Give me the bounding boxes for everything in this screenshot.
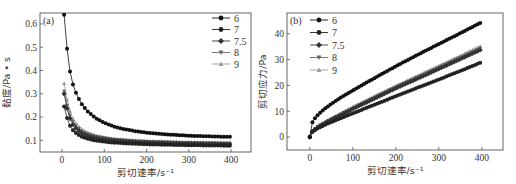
y-tick-label: 0.4	[25, 66, 37, 76]
data-point-marker	[80, 102, 84, 106]
data-point-marker	[68, 69, 72, 73]
x-tick-label: 0	[60, 155, 65, 165]
panel-b-shear-stress-chart: 0100200300400010203040剪切速率/s⁻¹剪切应力/Pa(b)…	[257, 13, 503, 176]
legend-item-7: 7	[212, 24, 239, 35]
y-tick-label: 0.3	[25, 89, 37, 99]
legend-label: 7.5	[332, 40, 345, 51]
x-tick-label: 300	[432, 153, 447, 163]
plot-area	[62, 13, 233, 148]
data-point-marker	[74, 91, 78, 95]
y-tick-label: 0.1	[25, 136, 37, 146]
x-axis-label: 剪切速率/s⁻¹	[117, 167, 174, 178]
y-axis-label: 黏度/Pa • s	[1, 57, 12, 108]
legend-label: 6	[234, 13, 239, 24]
y-tick-label: 0	[279, 132, 284, 142]
y-tick-label: 0.6	[25, 19, 37, 29]
legend-item-8: 8	[212, 47, 239, 58]
data-point-marker	[478, 61, 482, 65]
legend-item-8: 8	[310, 52, 337, 63]
x-tick-label: 100	[346, 153, 361, 163]
x-tick-label: 400	[224, 155, 239, 165]
y-tick-label: 0.2	[25, 112, 37, 122]
data-point-marker	[313, 116, 317, 120]
legend-item-6: 6	[212, 13, 239, 24]
x-tick-label: 0	[307, 153, 312, 163]
data-point-marker	[228, 144, 232, 148]
legend-label: 7	[332, 27, 337, 38]
data-point-marker	[62, 81, 66, 85]
x-tick-label: 100	[97, 155, 112, 165]
legend-label: 7	[234, 24, 239, 35]
y-tick-label: 40	[275, 29, 285, 39]
data-point-marker	[68, 124, 72, 128]
legend-item-7.5: 7.5	[310, 40, 345, 51]
x-axis-label: 剪切速率/s⁻¹	[367, 165, 424, 176]
legend-marker-icon	[219, 27, 224, 32]
data-point-marker	[62, 105, 66, 109]
legend-item-7.5: 7.5	[212, 36, 247, 47]
x-tick-label: 300	[182, 155, 197, 165]
x-tick-label: 400	[475, 153, 490, 163]
legend-marker-icon	[317, 30, 322, 35]
x-tick-label: 200	[139, 155, 154, 165]
legend-label: 7.5	[234, 36, 247, 47]
legend-item-6: 6	[310, 15, 337, 26]
data-point-marker	[65, 116, 69, 120]
series-6	[62, 13, 232, 139]
data-point-marker	[308, 135, 312, 139]
x-tick-label: 200	[389, 153, 404, 163]
data-point-marker	[65, 47, 69, 51]
legend-label: 8	[332, 52, 337, 63]
legend: 677.589	[212, 13, 247, 70]
data-point-marker	[62, 13, 66, 17]
legend-item-9: 9	[212, 59, 239, 70]
series-line	[64, 15, 230, 137]
data-point-marker	[228, 135, 232, 139]
data-point-marker	[77, 97, 81, 101]
y-tick-label: 20	[275, 81, 285, 91]
legend-marker-icon	[316, 42, 322, 48]
panel-label: (b)	[290, 15, 302, 27]
legend-item-9: 9	[310, 65, 337, 76]
data-point-marker	[310, 120, 314, 124]
y-tick-label: 30	[275, 55, 285, 65]
legend-label: 6	[332, 15, 337, 26]
y-tick-label: 0.5	[25, 43, 37, 53]
legend-item-7: 7	[310, 27, 337, 38]
legend: 677.589	[310, 15, 345, 76]
legend-marker-icon	[219, 16, 224, 21]
data-point-marker	[478, 21, 482, 25]
y-tick-label: 10	[275, 107, 285, 117]
legend-label: 9	[234, 59, 239, 70]
data-point-marker	[83, 106, 87, 110]
data-point-marker	[71, 128, 75, 132]
legend-label: 8	[234, 47, 239, 58]
legend-label: 9	[332, 65, 337, 76]
panel-label: (a)	[43, 15, 54, 27]
legend-marker-icon	[317, 18, 322, 23]
figure: 01002003004000.10.20.30.40.50.6剪切速率/s⁻¹黏…	[0, 0, 516, 184]
panel-a-viscosity-chart: 01002003004000.10.20.30.40.50.6剪切速率/s⁻¹黏…	[1, 13, 251, 179]
data-point-marker	[71, 82, 75, 86]
y-axis-label: 剪切应力/Pa	[257, 54, 268, 108]
legend-marker-icon	[218, 38, 224, 44]
